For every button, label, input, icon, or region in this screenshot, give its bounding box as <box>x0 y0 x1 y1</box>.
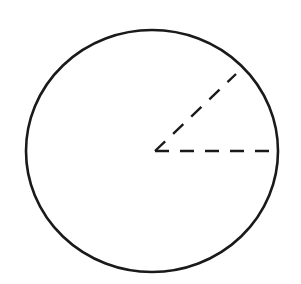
circle-angle-diagram <box>0 0 301 284</box>
figure-canvas <box>0 0 301 284</box>
canvas-background <box>0 0 301 284</box>
